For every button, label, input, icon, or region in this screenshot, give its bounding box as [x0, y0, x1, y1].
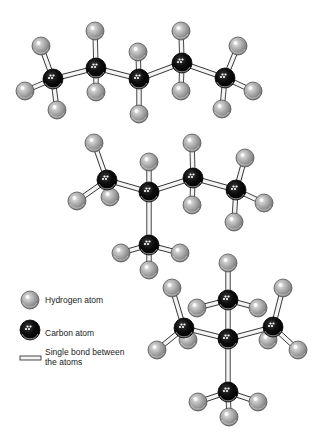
hydrogen-atom-icon	[148, 341, 166, 359]
hydrogen-atom-icon	[289, 341, 307, 359]
hydrogen-atom-icon	[140, 153, 158, 171]
hydrogen-atom-icon	[229, 37, 247, 55]
molecule-n-pentane	[16, 22, 262, 123]
hydrogen-atom-icon	[219, 254, 237, 272]
hydrogen-atom-icon	[16, 82, 34, 100]
hydrogen-atom-icon	[112, 244, 130, 262]
molecule-isopentane	[68, 134, 273, 279]
carbon-atom-icon	[263, 317, 283, 337]
hydrogen-atom-icon	[85, 134, 103, 152]
carbon-atom-icon	[20, 320, 40, 340]
carbon-atom-icon	[218, 382, 238, 402]
hydrogen-atom-icon	[189, 393, 207, 411]
carbon-atom-icon	[97, 170, 117, 190]
carbon-atom-icon	[218, 329, 238, 349]
single-bond-icon	[20, 356, 41, 360]
hydrogen-atom-icon	[244, 82, 262, 100]
carbon-atom-icon	[172, 53, 192, 73]
carbon-atom-icon	[43, 69, 63, 89]
hydrogen-atom-icon	[130, 105, 148, 123]
hydrogen-atom-icon	[87, 83, 105, 101]
legend-carbon-label: Carbon atom	[45, 328, 94, 338]
hydrogen-atom-icon	[140, 261, 158, 279]
hydrogen-atom-icon	[172, 82, 190, 100]
hydrogen-atom-icon	[183, 196, 201, 214]
carbon-atom-icon	[215, 68, 235, 88]
hydrogen-atom-icon	[236, 149, 254, 167]
carbon-atom-icon	[174, 318, 194, 338]
carbon-atom-icon	[226, 180, 246, 200]
legend-bond-label-line1: Single bond between	[45, 347, 124, 357]
carbon-atom-icon	[183, 168, 203, 188]
hydrogen-atom-icon	[172, 22, 190, 40]
hydrogen-atom-icon	[249, 299, 267, 317]
molecule-neopentane	[148, 254, 307, 426]
legend-icons	[20, 291, 41, 360]
hydrogen-atom-icon	[101, 188, 119, 206]
legend-hydrogen-label: Hydrogen atom	[45, 295, 103, 305]
hydrogen-atom-icon	[68, 192, 86, 210]
hydrogen-atom-icon	[274, 279, 292, 297]
hydrogen-atom-icon	[171, 244, 189, 262]
hydrogen-atom-icon	[163, 279, 181, 297]
legend-bond-label-line2: the atoms	[45, 357, 82, 367]
hydrogen-atom-icon	[188, 299, 206, 317]
carbon-atom-icon	[129, 69, 149, 89]
carbon-atom-icon	[139, 182, 159, 202]
carbon-atom-icon	[86, 58, 106, 78]
hydrogen-atom-icon	[220, 408, 238, 426]
hydrogen-atom-icon	[32, 37, 50, 55]
hydrogen-atom-icon	[48, 101, 66, 119]
hydrogen-atom-icon	[255, 194, 273, 212]
hydrogen-atom-icon	[86, 22, 104, 40]
hydrogen-atom-icon	[249, 393, 267, 411]
molecule-diagram	[0, 0, 328, 443]
carbon-atom-icon	[218, 290, 238, 310]
carbon-atom-icon	[139, 235, 159, 255]
hydrogen-atom-icon	[213, 100, 231, 118]
hydrogen-atom-icon	[129, 43, 147, 61]
hydrogen-atom-icon	[21, 291, 39, 309]
hydrogen-atom-icon	[225, 213, 243, 231]
hydrogen-atom-icon	[183, 134, 201, 152]
